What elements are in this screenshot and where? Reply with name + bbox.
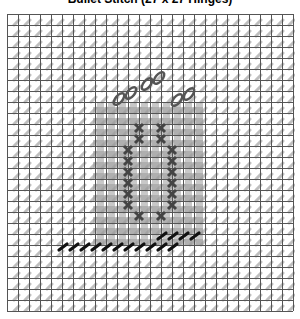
fill-stitch [181, 184, 192, 191]
fill-stitch [93, 184, 104, 191]
fill-stitch [93, 228, 104, 235]
fill-stitch [104, 162, 115, 169]
fill-stitch [93, 173, 104, 180]
fill-stitch [170, 129, 181, 136]
fill-stitch [104, 107, 115, 114]
fill-stitch [159, 107, 170, 114]
fill-stitch [115, 129, 126, 136]
fill-stitch [181, 151, 192, 158]
fill-stitch [192, 107, 203, 114]
fill-stitch [192, 173, 203, 180]
fill-stitch [93, 107, 104, 114]
fill-stitch [192, 162, 203, 169]
fill-stitch [181, 107, 192, 114]
fill-stitch [104, 173, 115, 180]
fill-stitch [104, 195, 115, 202]
fill-stitch [192, 151, 203, 158]
fill-stitch [115, 107, 126, 114]
fill-stitch [192, 206, 203, 213]
fill-stitch [181, 140, 192, 147]
fill-stitch [93, 140, 104, 147]
fill-stitch [93, 195, 104, 202]
fill-stitch [93, 162, 104, 169]
fill-stitch [170, 107, 181, 114]
stitch-grid [7, 14, 295, 312]
fill-stitch [181, 162, 192, 169]
fill-stitch [104, 217, 115, 224]
fill-stitch [126, 228, 137, 235]
fill-stitch [148, 173, 159, 180]
fill-stitch [148, 228, 159, 235]
fill-stitch [181, 118, 192, 125]
fill-stitch [137, 162, 148, 169]
fill-stitch [115, 217, 126, 224]
fill-stitch [192, 217, 203, 224]
fill-stitch [192, 118, 203, 125]
fill-stitch [181, 173, 192, 180]
loop-stitch-icon [170, 92, 184, 107]
fill-stitch [104, 151, 115, 158]
fill-stitch [137, 107, 148, 114]
loop-stitch-icon [140, 76, 154, 91]
fill-stitch [192, 184, 203, 191]
fill-stitch [137, 228, 148, 235]
fill-stitch [170, 118, 181, 125]
fill-stitch [104, 184, 115, 191]
fill-stitch [148, 162, 159, 169]
fill-stitch [93, 206, 104, 213]
fill-stitch [181, 206, 192, 213]
fill-stitch [148, 184, 159, 191]
fill-stitch [115, 228, 126, 235]
diagram-title: Bullet Stitch (27 x 27 Hinges) [0, 0, 300, 6]
fill-stitch [181, 217, 192, 224]
fill-stitch [93, 118, 104, 125]
fill-stitch [104, 140, 115, 147]
fill-stitch [181, 195, 192, 202]
fill-stitch [137, 184, 148, 191]
fill-stitch [93, 151, 104, 158]
fill-stitch [192, 129, 203, 136]
fill-stitch [93, 129, 104, 136]
fill-stitch [192, 239, 203, 246]
fill-stitch [93, 217, 104, 224]
fill-stitch [192, 140, 203, 147]
fill-stitch [137, 173, 148, 180]
fill-stitch [104, 228, 115, 235]
fill-stitch [170, 217, 181, 224]
fill-stitch [137, 195, 148, 202]
fill-stitch [137, 151, 148, 158]
fill-stitch [192, 195, 203, 202]
fill-stitch [104, 118, 115, 125]
fill-stitch [148, 107, 159, 114]
fill-stitch [104, 206, 115, 213]
fill-stitch [148, 151, 159, 158]
fill-stitch [115, 118, 126, 125]
fill-stitch [104, 129, 115, 136]
fill-stitch [181, 129, 192, 136]
fill-stitch [126, 107, 137, 114]
fill-stitch [148, 195, 159, 202]
